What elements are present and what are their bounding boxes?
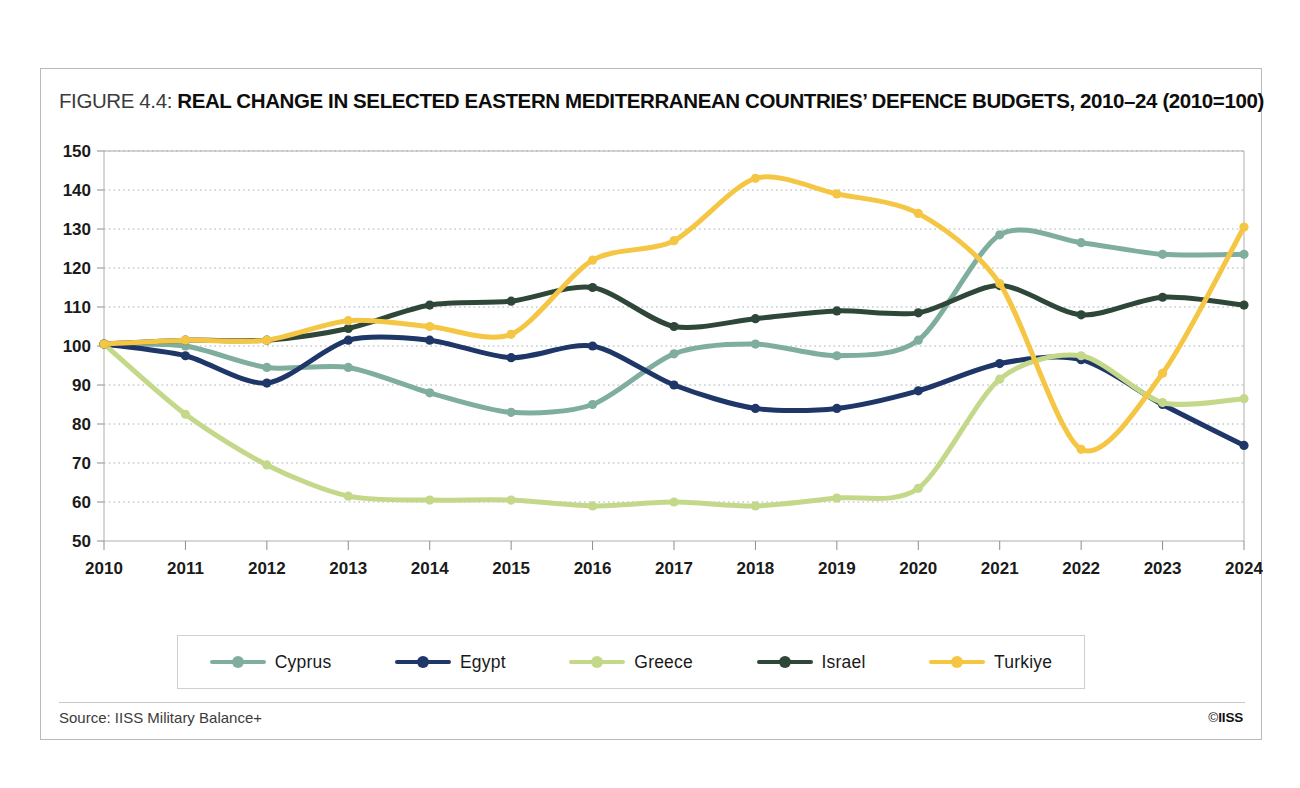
legend-label: Greece bbox=[634, 652, 693, 673]
data-point bbox=[751, 501, 760, 510]
y-axis-label: 90 bbox=[72, 376, 91, 395]
data-point bbox=[262, 378, 271, 387]
data-point bbox=[914, 209, 923, 218]
x-axis-label: 2019 bbox=[818, 559, 856, 578]
y-axis-label: 110 bbox=[64, 298, 91, 317]
data-point bbox=[507, 353, 516, 362]
data-point bbox=[832, 494, 841, 503]
x-axis-label: 2024 bbox=[1225, 559, 1263, 578]
data-point bbox=[588, 283, 597, 292]
legend-item-israel[interactable]: Israel bbox=[757, 652, 866, 673]
data-point bbox=[669, 380, 678, 389]
y-axis-label: 100 bbox=[63, 337, 91, 356]
x-axis-label: 2016 bbox=[574, 559, 612, 578]
data-point bbox=[507, 408, 516, 417]
x-axis-label: 2018 bbox=[737, 559, 775, 578]
y-axis-label: 130 bbox=[63, 220, 91, 239]
data-point bbox=[1239, 300, 1248, 309]
data-point bbox=[588, 400, 597, 409]
data-point bbox=[425, 495, 434, 504]
x-axis-label: 2015 bbox=[492, 559, 530, 578]
data-point bbox=[1158, 293, 1167, 302]
legend-label: Egypt bbox=[460, 652, 506, 673]
data-point bbox=[425, 322, 434, 331]
legend-item-turkiye[interactable]: Turkiye bbox=[929, 652, 1052, 673]
copyright-label: IISS bbox=[1218, 710, 1243, 725]
data-point bbox=[832, 404, 841, 413]
data-point bbox=[914, 336, 923, 345]
x-axis-label: 2012 bbox=[248, 559, 286, 578]
y-axis-label: 70 bbox=[72, 454, 91, 473]
chart-legend: CyprusEgyptGreeceIsraelTurkiye bbox=[177, 635, 1085, 689]
x-axis-label: 2021 bbox=[981, 559, 1019, 578]
y-axis-label: 50 bbox=[72, 532, 91, 551]
data-point bbox=[1158, 369, 1167, 378]
data-point bbox=[588, 256, 597, 265]
y-axis-label: 150 bbox=[63, 142, 91, 161]
data-point bbox=[425, 388, 434, 397]
data-point bbox=[344, 363, 353, 372]
data-point bbox=[995, 359, 1004, 368]
legend-label: Turkiye bbox=[994, 652, 1052, 673]
data-point bbox=[262, 336, 271, 345]
data-point bbox=[832, 306, 841, 315]
data-point bbox=[1077, 310, 1086, 319]
legend-label: Cyprus bbox=[275, 652, 332, 673]
data-point bbox=[995, 230, 1004, 239]
data-point bbox=[751, 314, 760, 323]
data-point bbox=[344, 336, 353, 345]
legend-swatch-icon bbox=[757, 656, 813, 668]
data-point bbox=[914, 484, 923, 493]
x-axis-label: 2014 bbox=[411, 559, 449, 578]
data-point bbox=[425, 300, 434, 309]
data-point bbox=[832, 189, 841, 198]
data-point bbox=[1077, 351, 1086, 360]
data-point bbox=[832, 351, 841, 360]
data-point bbox=[669, 349, 678, 358]
data-point bbox=[1158, 250, 1167, 259]
data-point bbox=[751, 339, 760, 348]
footer-divider bbox=[59, 702, 1245, 703]
data-point bbox=[995, 279, 1004, 288]
legend-swatch-icon bbox=[569, 656, 625, 668]
iiss-copyright: ©IISS bbox=[1208, 710, 1243, 725]
data-point bbox=[99, 339, 108, 348]
data-point bbox=[914, 386, 923, 395]
data-point bbox=[669, 497, 678, 506]
legend-item-greece[interactable]: Greece bbox=[569, 652, 693, 673]
data-point bbox=[507, 297, 516, 306]
data-point bbox=[751, 174, 760, 183]
legend-swatch-icon bbox=[929, 656, 985, 668]
legend-item-cyprus[interactable]: Cyprus bbox=[210, 652, 332, 673]
x-axis-label: 2023 bbox=[1144, 559, 1182, 578]
data-point bbox=[1239, 250, 1248, 259]
data-point bbox=[669, 236, 678, 245]
data-point bbox=[425, 336, 434, 345]
data-point bbox=[914, 308, 923, 317]
data-point bbox=[507, 495, 516, 504]
plot-frame bbox=[104, 151, 1244, 541]
legend-label: Israel bbox=[822, 652, 866, 673]
data-point bbox=[344, 316, 353, 325]
data-point bbox=[1239, 394, 1248, 403]
y-axis-label: 80 bbox=[72, 415, 91, 434]
figure-card: FIGURE 4.4: REAL CHANGE IN SELECTED EAST… bbox=[40, 68, 1262, 740]
y-axis-label: 140 bbox=[63, 181, 91, 200]
x-axis-label: 2013 bbox=[329, 559, 367, 578]
legend-item-egypt[interactable]: Egypt bbox=[395, 652, 506, 673]
data-point bbox=[669, 322, 678, 331]
data-point bbox=[262, 363, 271, 372]
data-point bbox=[262, 460, 271, 469]
data-point bbox=[995, 375, 1004, 384]
x-axis-label: 2017 bbox=[655, 559, 693, 578]
x-axis-label: 2020 bbox=[899, 559, 937, 578]
legend-swatch-icon bbox=[210, 656, 266, 668]
data-point bbox=[1239, 441, 1248, 450]
series-line bbox=[104, 286, 1244, 345]
data-point bbox=[181, 336, 190, 345]
data-point bbox=[181, 410, 190, 419]
data-point bbox=[1239, 222, 1248, 231]
data-point bbox=[588, 501, 597, 510]
x-axis-label: 2022 bbox=[1062, 559, 1100, 578]
data-point bbox=[588, 341, 597, 350]
